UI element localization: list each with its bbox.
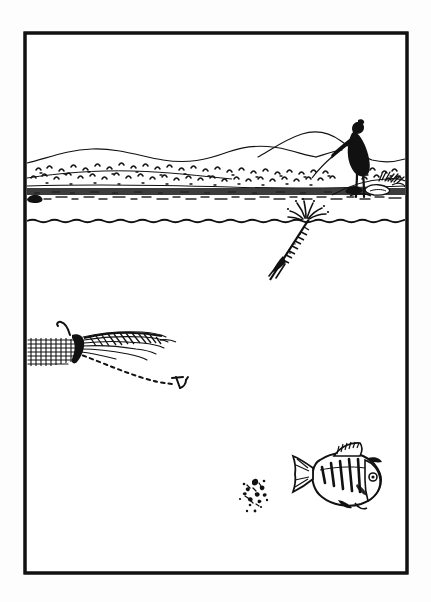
- illustration-page: Shoreline spearfishing scene with underw…: [0, 0, 431, 602]
- illustration-canvas: [0, 0, 431, 602]
